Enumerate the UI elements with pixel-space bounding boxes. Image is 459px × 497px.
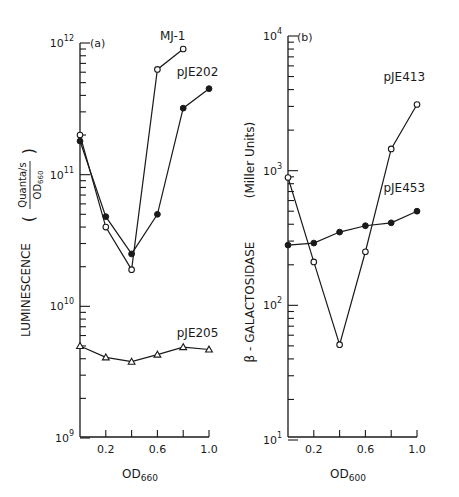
- y-tick-label: 104: [263, 27, 282, 43]
- x-axis-label: OD600: [330, 467, 366, 483]
- figure: 1012101110101090.20.61.0OD660LUMINESCENC…: [0, 0, 459, 497]
- data-point-open-circle: [103, 224, 109, 230]
- data-point-open-circle: [77, 132, 83, 138]
- y-tick-label: 109: [55, 429, 74, 445]
- data-point-filled-circle: [414, 208, 420, 214]
- y-tick-label: 103: [263, 162, 282, 178]
- y-tick-label: 102: [263, 296, 282, 312]
- data-point-open-circle: [155, 67, 161, 73]
- panel-label: (a): [90, 37, 105, 50]
- data-point-open-circle: [180, 46, 186, 52]
- data-point-filled-circle: [180, 105, 186, 111]
- data-point-open-circle: [311, 259, 317, 265]
- y-axis-label: LUMINESCENCE: [19, 243, 33, 337]
- series-line: [80, 346, 209, 362]
- series-pje413: pJE413: [285, 70, 425, 347]
- data-point-open-circle: [285, 175, 291, 181]
- series-pje202: pJE202: [77, 65, 218, 257]
- svg-text:): ): [19, 148, 38, 154]
- series-label: MJ-1: [160, 29, 185, 43]
- panel-label: (b): [297, 31, 313, 44]
- data-point-filled-circle: [363, 223, 369, 229]
- data-point-filled-circle: [337, 229, 343, 235]
- panel-a-luminescence-chart: 1012101110101090.20.61.0OD660LUMINESCENC…: [17, 29, 218, 483]
- y-tick-label: 1012: [50, 34, 74, 50]
- data-point-open-circle: [337, 342, 343, 348]
- x-tick-label: 0.6: [357, 443, 375, 456]
- series-mj-1: MJ-1: [77, 29, 186, 272]
- series-label: pJE202: [177, 65, 219, 79]
- panel-b-beta-galactosidase-chart: 1041031021010.20.61.0OD600β - GALACTOSID…: [243, 27, 426, 483]
- svg-text:Quanta/s: Quanta/s: [17, 162, 28, 207]
- y-axis-unit: ()Quanta/sOD660: [17, 148, 45, 222]
- series-pje205: pJE205: [77, 326, 219, 364]
- series-label: pJE453: [383, 181, 425, 195]
- y-axis-label: β - GALACTOSIDASE: [243, 242, 257, 363]
- data-point-filled-circle: [206, 86, 212, 92]
- data-point-open-triangle: [180, 344, 187, 350]
- x-tick-label: 1.0: [200, 443, 218, 456]
- data-point-filled-circle: [311, 240, 317, 246]
- series-label: pJE205: [177, 326, 219, 340]
- data-point-filled-circle: [285, 242, 291, 248]
- x-axis-label: OD660: [122, 467, 158, 483]
- series-line: [80, 49, 183, 270]
- data-point-filled-circle: [129, 251, 135, 257]
- y-tick-label: 1011: [50, 166, 74, 182]
- svg-text:(: (: [19, 216, 38, 222]
- series-label: pJE413: [383, 70, 425, 84]
- data-point-filled-circle: [388, 220, 394, 226]
- y-tick-label: 101: [263, 431, 282, 447]
- data-point-filled-circle: [155, 211, 161, 217]
- x-tick-label: 0.2: [305, 443, 323, 456]
- data-point-open-circle: [414, 102, 420, 108]
- series-line: [288, 104, 417, 344]
- data-point-filled-circle: [77, 138, 83, 144]
- y-axis-unit: (Miller Units): [243, 122, 257, 199]
- x-tick-label: 1.0: [408, 443, 426, 456]
- x-tick-label: 0.6: [149, 443, 167, 456]
- y-tick-label: 1010: [50, 297, 74, 313]
- x-tick-label: 0.2: [97, 443, 115, 456]
- data-point-open-circle: [388, 146, 394, 152]
- svg-text:OD660: OD660: [32, 171, 45, 200]
- data-point-filled-circle: [103, 214, 109, 220]
- data-point-open-circle: [363, 249, 369, 255]
- data-point-open-circle: [129, 267, 135, 273]
